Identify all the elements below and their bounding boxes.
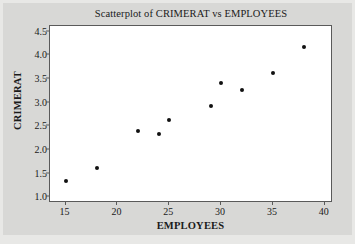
- x-axis-tick-mark: [220, 202, 221, 205]
- x-axis-tick-mark: [272, 202, 273, 205]
- scatterplot-figure: Scatterplot of CRIMERAT vs EMPLOYEES CRI…: [0, 0, 355, 244]
- x-axis-tick-mark: [324, 202, 325, 205]
- x-axis-tick-label: 15: [50, 206, 80, 217]
- x-axis-tick-label: 30: [205, 206, 235, 217]
- y-axis-tick-marks: [0, 25, 49, 202]
- x-axis-title: EMPLOYEES: [49, 220, 332, 231]
- x-axis-tick-label: 25: [153, 206, 183, 217]
- x-axis-tick-mark: [168, 202, 169, 205]
- x-axis-tick-labels: 152025303540: [49, 206, 332, 220]
- x-axis-tick-label: 40: [309, 206, 339, 217]
- x-axis-tick-mark: [116, 202, 117, 205]
- x-axis-tick-label: 35: [257, 206, 287, 217]
- x-axis-tick-mark: [65, 202, 66, 205]
- x-axis-tick-label: 20: [101, 206, 131, 217]
